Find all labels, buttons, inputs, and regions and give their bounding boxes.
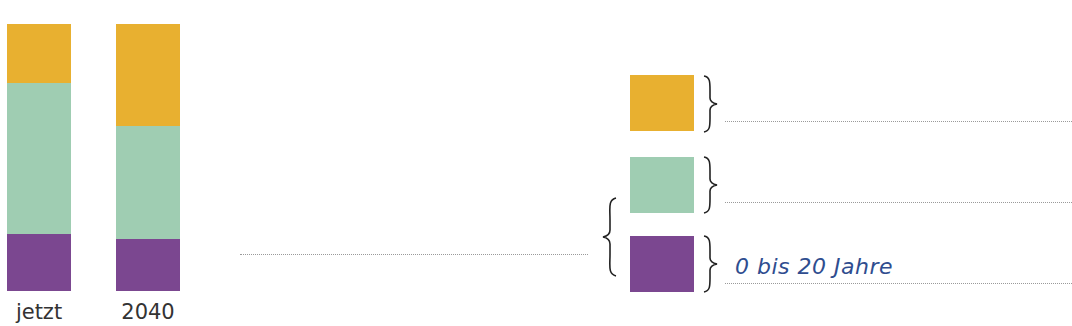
bar-jetzt <box>7 24 71 291</box>
legend-swatch-yellow <box>630 75 694 131</box>
segment-yellow <box>7 24 71 83</box>
answer-line-purple[interactable] <box>725 283 1072 284</box>
segment-yellow <box>116 24 180 126</box>
bar-2040 <box>116 24 180 291</box>
x-label-2040: 2040 <box>103 300 193 324</box>
segment-green <box>116 126 180 239</box>
right-brace-icon <box>700 234 720 294</box>
right-brace-icon <box>700 155 720 215</box>
answer-line-green[interactable] <box>725 202 1072 203</box>
segment-purple <box>116 239 180 291</box>
legend-swatch-green <box>630 157 694 213</box>
segment-purple <box>7 234 71 291</box>
x-label-jetzt: jetzt <box>0 300 84 324</box>
right-brace-icon <box>700 74 720 134</box>
answer-line-left[interactable] <box>240 254 588 255</box>
left-brace-icon <box>600 196 620 278</box>
handwritten-answer-purple: 0 bis 20 Jahre <box>735 254 893 279</box>
legend-swatch-purple <box>630 236 694 292</box>
segment-green <box>7 83 71 234</box>
answer-line-yellow[interactable] <box>725 121 1072 122</box>
